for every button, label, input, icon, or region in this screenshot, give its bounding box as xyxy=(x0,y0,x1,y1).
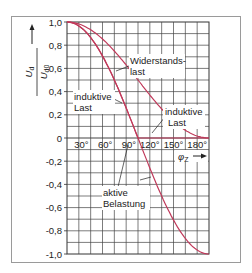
y-tick-label: -0,4 xyxy=(46,179,62,190)
svg-text:Belastung: Belastung xyxy=(103,198,145,209)
y-tick-label: 0,2 xyxy=(49,109,62,120)
y-tick-label: -0,2 xyxy=(46,156,62,167)
svg-text:last: last xyxy=(130,66,145,77)
y-tick-label: -1,0 xyxy=(46,249,62,260)
chart-svg: 1,00,80,60,40,20-0,2-0,4-0,6-0,8-1,0 30°… xyxy=(0,0,252,273)
y-axis-label: Ud xyxy=(23,67,35,78)
x-tick-label: 120° xyxy=(140,139,160,150)
svg-text:induktive: induktive xyxy=(165,106,203,117)
x-tick-label: 150° xyxy=(164,139,184,150)
x-tick-label: 90° xyxy=(122,139,137,150)
y-tick-label: 0,6 xyxy=(49,63,62,74)
svg-text:Ud0: Ud0 xyxy=(38,65,50,80)
svg-text:Ud: Ud xyxy=(23,67,35,78)
y-tick-label: -0,8 xyxy=(46,225,62,236)
y-axis-arrow-icon xyxy=(30,24,35,44)
y-tick-label: 0,4 xyxy=(49,86,62,97)
y-tick-label: 0 xyxy=(57,133,62,144)
svg-text:Last: Last xyxy=(168,117,186,128)
y-tick-labels: 1,00,80,60,40,20-0,2-0,4-0,6-0,8-1,0 xyxy=(46,17,62,260)
x-tick-label: 30° xyxy=(74,139,89,150)
y-tick-label: -0,6 xyxy=(46,202,62,213)
svg-text:induktive: induktive xyxy=(74,91,112,102)
svg-text:Widerstands-: Widerstands- xyxy=(130,55,186,66)
svg-text:Last: Last xyxy=(74,102,92,113)
annotation-induktive-last-left: induktive Last xyxy=(73,90,122,114)
svg-text:aktive: aktive xyxy=(103,187,128,198)
y-tick-label: 0,8 xyxy=(49,40,62,51)
y-axis-label-denominator: Ud0 xyxy=(38,65,50,80)
x-tick-label: 60° xyxy=(98,139,113,150)
y-tick-label: 1,0 xyxy=(49,17,62,28)
x-tick-label: 180° xyxy=(187,139,207,150)
